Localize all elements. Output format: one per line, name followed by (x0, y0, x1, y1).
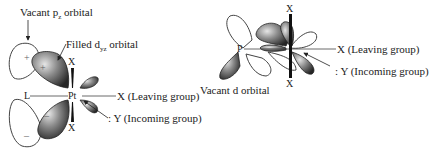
sign-minus-dyz: – (44, 110, 49, 121)
filled-dyz-upper-lobe (32, 52, 69, 88)
phosphorus-label: P (237, 43, 243, 55)
small-upper-right-lobe (80, 77, 98, 89)
filled-dyz-subscript: yz (100, 45, 107, 53)
filled-dyz-label: Filled dyz orbital (66, 38, 138, 55)
x-top-label: X (68, 56, 75, 68)
filled-dyz-suffix: orbital (107, 38, 138, 50)
small-lower-right-lobe (80, 100, 98, 113)
x-bottom-label: X (68, 122, 75, 134)
right-x-bottom-label: X (286, 78, 293, 90)
filled-dyz-text: Filled d (66, 38, 100, 50)
pt-label: Pt (68, 90, 76, 102)
ligand-l-label: L (24, 90, 30, 102)
sign-plus-pz: + (24, 52, 30, 63)
right-incoming-group-label: : Y (Incoming group) (335, 65, 429, 77)
filled-lower-right-lobe (292, 52, 314, 74)
filled-dyz-lower-lobe (38, 100, 69, 139)
left-incoming-group-label: : Y (Incoming group) (108, 112, 202, 124)
vacant-pz-label: Vacant pz orbital (20, 6, 93, 23)
sign-plus-dyz: + (40, 62, 46, 73)
pt-x-bottom-bond (71, 102, 74, 122)
orbital-diagram (0, 0, 431, 158)
pt-x-top-bond (71, 68, 74, 88)
right-x-top-label: X (286, 3, 293, 15)
filled-center-lobe (260, 45, 286, 51)
x-metal-x-axial-bond (289, 14, 292, 78)
sign-minus-pz: – (24, 130, 29, 141)
left-leaving-group-label: X (Leaving group) (117, 90, 199, 102)
right-leaving-group-label: X (Leaving group) (337, 43, 419, 55)
vacant-d-lower-lobe (246, 54, 271, 76)
vacant-pz-suffix: orbital (61, 6, 92, 18)
filled-lower-left-lobe (220, 52, 240, 79)
vacant-d-orbital-label: Vacant d orbital (200, 84, 270, 96)
vacant-pz-text: Vacant p (20, 6, 58, 18)
